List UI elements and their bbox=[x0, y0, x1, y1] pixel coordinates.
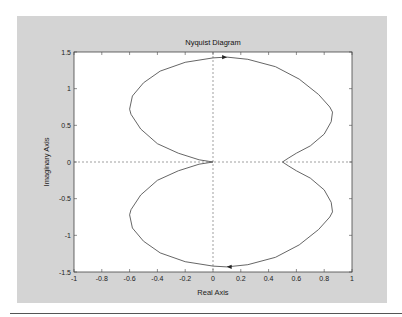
x-tick-label: -0.8 bbox=[96, 275, 108, 282]
y-tick-label: 0 bbox=[67, 159, 71, 166]
y-tick-label: 1.5 bbox=[61, 49, 71, 56]
y-axis-label: Imaginary Axis bbox=[42, 137, 51, 186]
x-tick-label: 0.6 bbox=[292, 275, 302, 282]
y-tick-label: 0.5 bbox=[61, 122, 71, 129]
y-tick-label: -1 bbox=[65, 232, 71, 239]
x-tick-label: -0.6 bbox=[124, 275, 136, 282]
y-tick-label: 1 bbox=[67, 85, 71, 92]
chart-title: Nyquist Diagram bbox=[185, 38, 240, 47]
x-tick-label: -0.2 bbox=[179, 275, 191, 282]
x-tick-label: 0.8 bbox=[319, 275, 329, 282]
y-tick-label: -1.5 bbox=[59, 269, 71, 276]
nyquist-plot: -1-0.8-0.6-0.4-0.200.20.40.60.81-1.5-1-0… bbox=[0, 0, 402, 317]
x-tick-label: 0.4 bbox=[264, 275, 274, 282]
x-tick-label: 1 bbox=[350, 275, 354, 282]
y-tick-label: -0.5 bbox=[59, 195, 71, 202]
x-tick-label: 0.2 bbox=[236, 275, 246, 282]
x-tick-label: -1 bbox=[71, 275, 77, 282]
x-tick-label: 0 bbox=[211, 275, 215, 282]
x-tick-label: -0.4 bbox=[151, 275, 163, 282]
x-axis-label: Real Axis bbox=[197, 288, 229, 297]
